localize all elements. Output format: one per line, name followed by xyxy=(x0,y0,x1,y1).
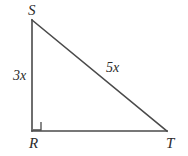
triangle-side-st xyxy=(32,20,167,131)
vertex-label-t: T xyxy=(166,136,174,151)
geometry-figure: S R T 3x 5x xyxy=(0,0,188,156)
side-length-label-sr: 3x xyxy=(13,69,26,83)
vertex-label-r: R xyxy=(29,136,38,151)
right-angle-marker-icon xyxy=(33,122,41,130)
triangle-drawing xyxy=(0,0,188,156)
side-length-label-st: 5x xyxy=(106,61,119,75)
vertex-label-s: S xyxy=(28,3,36,18)
